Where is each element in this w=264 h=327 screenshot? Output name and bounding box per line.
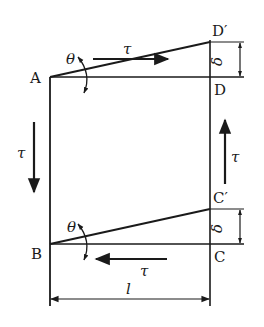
label-A: A [29, 69, 41, 87]
label-B: B [31, 245, 42, 263]
shear-deformation-diagram: A B C D C′ D′ τ τ τ τ θ θ δ δ l [0, 0, 264, 327]
label-delta-bottom: δ [208, 224, 226, 233]
label-C: C [214, 248, 225, 266]
diagram-canvas: A B C D C′ D′ τ τ τ τ θ θ δ δ l [0, 0, 264, 327]
label-tau-left: τ [17, 144, 26, 162]
label-tau-right: τ [231, 148, 240, 166]
label-tau-top: τ [123, 40, 132, 58]
label-D-prime: D′ [212, 22, 228, 40]
theta-bottom-arc [78, 224, 87, 260]
label-tau-bottom: τ [140, 262, 149, 280]
theta-top-arc [78, 57, 87, 93]
label-length: l [126, 280, 131, 298]
label-theta-bottom: θ [67, 218, 76, 236]
label-C-prime: C′ [213, 189, 228, 207]
label-delta-top: δ [208, 57, 226, 66]
angle-arcs [78, 57, 87, 260]
deformed-element [50, 42, 244, 244]
label-D: D [214, 81, 226, 99]
shear-stress-arrows [34, 59, 225, 259]
label-theta-top: θ [66, 50, 75, 68]
